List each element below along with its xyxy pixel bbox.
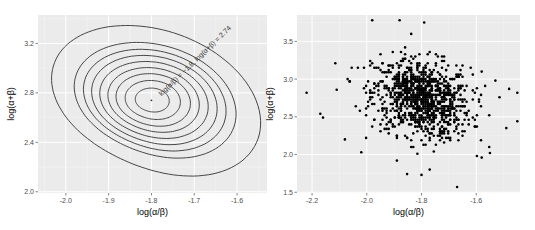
data-point	[392, 96, 395, 99]
data-point	[474, 91, 477, 94]
data-point	[412, 132, 415, 135]
data-point	[379, 123, 382, 126]
data-point	[428, 76, 431, 79]
data-point	[431, 71, 434, 74]
data-point	[459, 69, 462, 72]
data-point	[408, 89, 411, 92]
data-point	[369, 98, 372, 101]
data-point	[451, 100, 454, 103]
scatter-plot-panel: -2.2-2.0-1.8-1.61.52.02.53.03.5log(α/β)l…	[265, 15, 520, 217]
data-point	[449, 114, 452, 117]
x-tick-label: -1.6	[231, 197, 243, 204]
data-point	[516, 120, 519, 123]
x-axis-title: log(α/β)	[393, 207, 424, 217]
data-point	[476, 155, 479, 158]
data-point	[435, 107, 438, 110]
data-point	[433, 105, 436, 108]
data-point	[455, 64, 458, 67]
data-point	[480, 139, 483, 142]
data-point	[428, 69, 431, 72]
data-point	[406, 78, 409, 81]
data-point	[418, 78, 421, 81]
data-point	[453, 96, 456, 99]
data-point	[472, 116, 475, 119]
data-point	[435, 94, 438, 97]
data-point	[459, 85, 462, 88]
data-point	[410, 55, 413, 58]
data-point	[449, 85, 452, 88]
data-point	[494, 79, 497, 82]
data-point	[457, 139, 460, 142]
data-point	[424, 67, 427, 70]
data-point	[423, 21, 426, 24]
data-point	[439, 112, 442, 115]
data-point	[385, 116, 388, 119]
data-point	[441, 82, 444, 85]
y-tick-label: 3.0	[283, 76, 293, 83]
data-point	[385, 76, 388, 79]
data-point	[449, 89, 452, 92]
data-point	[387, 89, 390, 92]
data-point	[404, 46, 407, 49]
data-point	[359, 110, 362, 113]
data-point	[377, 89, 380, 92]
data-point	[398, 114, 401, 117]
data-point	[431, 121, 434, 124]
data-point	[406, 87, 409, 90]
data-point	[474, 125, 477, 128]
data-point	[439, 134, 442, 137]
data-point	[373, 119, 376, 122]
data-point	[426, 91, 429, 94]
data-point	[439, 103, 442, 106]
data-point	[404, 73, 407, 76]
data-point	[406, 107, 409, 110]
data-point	[457, 105, 460, 108]
data-point	[441, 137, 444, 140]
data-point	[456, 186, 459, 189]
data-point	[363, 67, 366, 70]
data-point	[369, 89, 372, 92]
data-point	[418, 107, 421, 110]
data-point	[453, 107, 456, 110]
data-point	[389, 119, 392, 122]
x-tick-label: -1.9	[103, 197, 115, 204]
data-point	[474, 119, 477, 122]
chart-figure: -2.0-1.9-1.8-1.7-1.62.02.42.83.2log(α/β)…	[0, 0, 535, 230]
x-tick-label: -2.0	[60, 197, 72, 204]
data-point	[445, 80, 448, 83]
data-point	[373, 87, 376, 90]
data-point	[455, 91, 458, 94]
data-point	[449, 91, 452, 94]
data-point	[385, 112, 388, 115]
data-point	[480, 156, 483, 159]
data-point	[404, 105, 407, 108]
data-point	[373, 91, 376, 94]
data-point	[322, 116, 325, 119]
data-point	[406, 85, 409, 88]
data-point	[406, 80, 409, 83]
data-point	[398, 19, 401, 22]
data-point	[398, 116, 401, 119]
data-point	[416, 67, 419, 70]
data-point	[435, 64, 438, 67]
data-point	[416, 98, 419, 101]
data-point	[381, 62, 384, 65]
data-point	[416, 76, 419, 79]
y-tick-label: 2.5	[283, 113, 293, 120]
data-point	[435, 98, 438, 101]
data-point	[377, 67, 380, 70]
data-point	[437, 123, 440, 126]
data-point	[414, 121, 417, 124]
data-point	[441, 67, 444, 70]
y-axis-title: log(α+β)	[6, 87, 16, 121]
data-point	[420, 85, 423, 88]
data-point	[418, 121, 421, 124]
data-point	[406, 96, 409, 99]
data-point	[428, 110, 431, 113]
data-point	[396, 98, 399, 101]
data-point	[443, 89, 446, 92]
data-point	[398, 85, 401, 88]
data-point	[402, 76, 405, 79]
data-point	[443, 85, 446, 88]
data-point	[398, 80, 401, 83]
